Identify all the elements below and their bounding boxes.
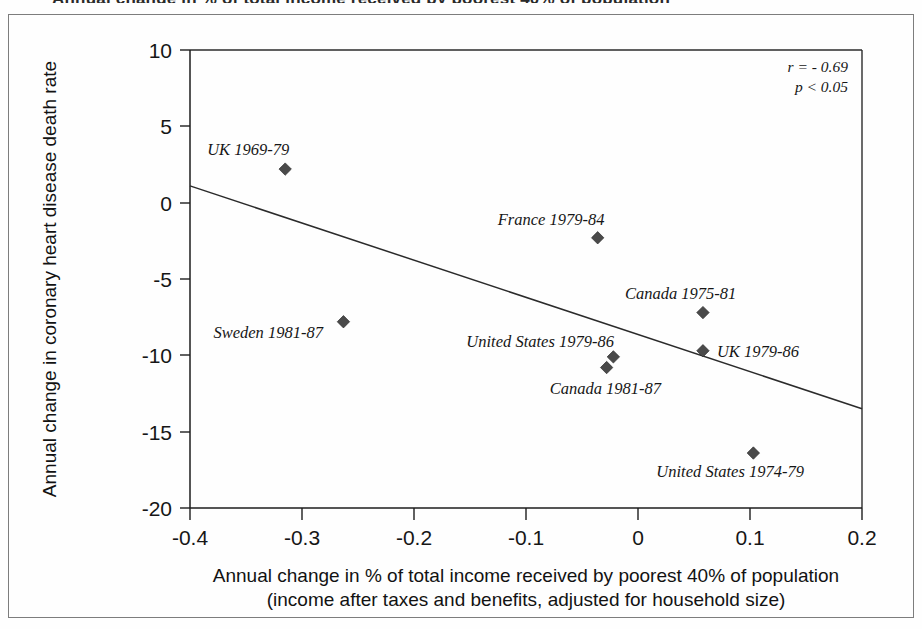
x-tick-label-3: -0.1 bbox=[508, 526, 544, 549]
y-axis-ticks: 10 5 0 -5 -10 -15 -20 bbox=[142, 39, 190, 520]
y-tick-label-1: 5 bbox=[160, 115, 172, 138]
scatter-plot: 10 5 0 -5 -10 -15 -20 -0.4 -0.3 -0.2 -0.… bbox=[0, 0, 922, 629]
correlation-r-annotation: r = - 0.69 bbox=[788, 58, 849, 75]
y-tick-label-6: -20 bbox=[142, 497, 172, 520]
data-points-layer: UK 1969-79Sweden 1981-87France 1979-84Un… bbox=[207, 140, 804, 481]
data-point-label: UK 1969-79 bbox=[207, 140, 289, 159]
y-tick-label-5: -15 bbox=[142, 421, 172, 444]
y-tick-label-2: 0 bbox=[160, 192, 172, 215]
y-tick-label-4: -10 bbox=[142, 344, 172, 367]
data-point-marker bbox=[337, 316, 349, 328]
plot-frame bbox=[190, 50, 862, 508]
data-point-marker bbox=[591, 232, 603, 244]
data-point-marker bbox=[607, 351, 619, 363]
data-point-label: United States 1974-79 bbox=[656, 462, 804, 481]
data-point-label: France 1979-84 bbox=[497, 210, 605, 229]
data-point-label: Sweden 1981-87 bbox=[213, 323, 323, 342]
data-point-label: Canada 1975-81 bbox=[625, 284, 736, 303]
data-point-label: Canada 1981-87 bbox=[550, 379, 662, 398]
x-axis-title-line1: Annual change in % of total income recei… bbox=[213, 565, 839, 586]
y-tick-label-3: -5 bbox=[153, 268, 172, 291]
data-point-marker bbox=[747, 447, 759, 459]
data-point-marker bbox=[279, 163, 291, 175]
x-tick-label-5: 0.1 bbox=[735, 526, 764, 549]
x-tick-label-2: -0.2 bbox=[396, 526, 432, 549]
y-axis-title: Annual change in coronary heart disease … bbox=[39, 61, 60, 497]
x-axis-ticks: -0.4 -0.3 -0.2 -0.1 0 0.1 0.2 bbox=[172, 508, 877, 549]
x-tick-label-1: -0.3 bbox=[284, 526, 320, 549]
x-tick-label-0: -0.4 bbox=[172, 526, 209, 549]
y-tick-label-0: 10 bbox=[149, 39, 172, 62]
data-point-marker bbox=[600, 361, 612, 373]
data-point-label: UK 1979-86 bbox=[717, 342, 800, 361]
data-point-label: United States 1979-86 bbox=[466, 332, 614, 351]
correlation-p-annotation: p < 0.05 bbox=[794, 78, 848, 95]
x-axis-title-line2: (income after taxes and benefits, adjust… bbox=[267, 589, 786, 610]
x-tick-label-4: 0 bbox=[632, 526, 644, 549]
data-point-marker bbox=[697, 306, 709, 318]
figure-container: Annual change in % of total income recei… bbox=[0, 0, 922, 629]
x-tick-label-6: 0.2 bbox=[847, 526, 876, 549]
